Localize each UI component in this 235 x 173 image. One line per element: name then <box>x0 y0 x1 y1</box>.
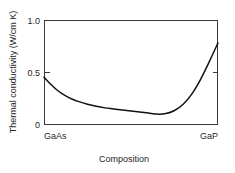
thermal-conductivity-chart-figure: 1.0 0.5 0 Thermal conductivity (W/cm K) … <box>0 0 235 173</box>
x-tick-label-gap: GaP <box>200 131 218 141</box>
y-tick-label-top: 1.0 <box>27 16 40 26</box>
y-axis-title: Thermal conductivity (W/cm K) <box>8 11 18 134</box>
x-tick-label-gaas: GaAs <box>44 131 67 141</box>
y-tick-label-bottom: 0 <box>35 120 40 130</box>
x-axis-title: Composition <box>99 154 149 164</box>
chart-canvas: 1.0 0.5 0 Thermal conductivity (W/cm K) … <box>0 0 235 173</box>
y-tick-label-mid: 0.5 <box>27 68 40 78</box>
